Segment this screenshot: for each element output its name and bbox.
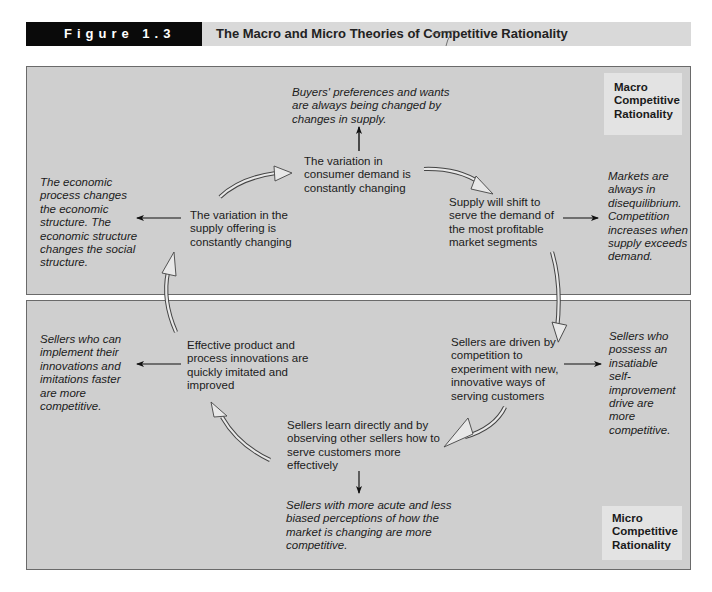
outcome-buyers-preferences: Buyers' preferences and wants are always… (292, 86, 462, 126)
micro-label-line: Micro (612, 512, 672, 525)
macro-label-line: Macro (614, 81, 672, 94)
node-supply-shift: Supply will shift to serve the demand of… (449, 196, 561, 250)
figure-number: Figure 1.3 (26, 22, 202, 46)
node-supply-offering: The variation in the supply offering is … (190, 209, 300, 249)
outcome-acute-perceptions: Sellers with more acute and less biased … (286, 499, 456, 553)
micro-label-line: Competitive (612, 525, 672, 538)
node-consumer-demand: The variation in consumer demand is cons… (304, 155, 432, 195)
outcome-self-improvement: Sellers who possess an insatiable self-i… (609, 330, 681, 437)
macro-label-line: Competitive (614, 94, 672, 107)
node-sellers-driven: Sellers are driven by competition to exp… (451, 336, 569, 403)
figure-header: Figure 1.3 The Macro and Micro Theories … (26, 22, 691, 46)
outcome-markets-disequilibrium: Markets are always in disequilibrium. Co… (608, 170, 688, 264)
macro-rationality-label: Macro Competitive Rationality (604, 73, 682, 135)
figure-title: The Macro and Micro Theories of Competit… (216, 22, 568, 46)
node-sellers-learn: Sellers learn directly and by observing … (287, 419, 447, 473)
macro-label-line: Rationality (614, 108, 672, 121)
micro-rationality-label: Micro Competitive Rationality (602, 506, 682, 560)
node-innovations-imitated: Effective product and process innovation… (187, 339, 317, 393)
micro-label-line: Rationality (612, 539, 672, 552)
outcome-faster-implementation: Sellers who can implement their innovati… (40, 333, 124, 413)
outcome-economic-structure: The economic process changes the economi… (40, 176, 144, 270)
